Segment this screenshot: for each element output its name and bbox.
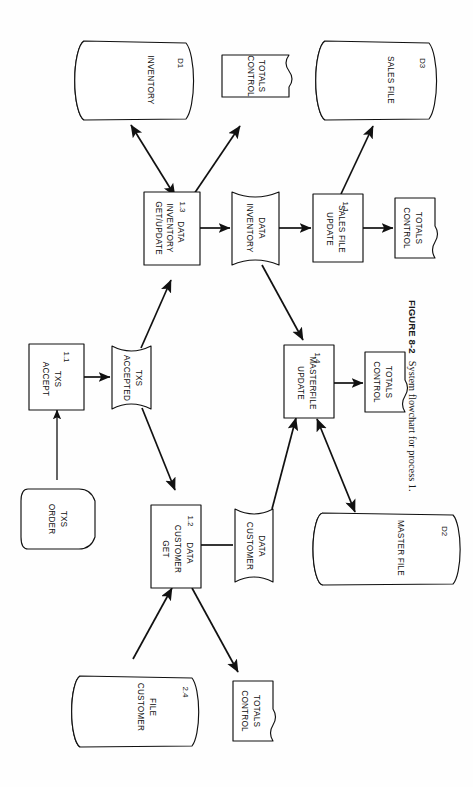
update-masterfile-line2: MASTERFILE	[308, 356, 317, 410]
edge-inventory-data-to-masterfile	[262, 265, 303, 340]
control-totals-sales-line2: TOTALS	[414, 212, 423, 245]
accepted-txs-line2: TXS	[134, 370, 143, 387]
node-control-totals-sales[interactable]: CONTROL TOTALS	[395, 198, 438, 258]
order-txs-line1: ORDER	[47, 504, 56, 535]
node-accepted-txs[interactable]: ACCEPTED TXS	[112, 346, 151, 409]
figure-caption: FIGURE 8-2System flowchart for process 1…	[407, 300, 418, 530]
get-update-inventory-line3: DATA	[176, 221, 185, 243]
edge-accepted-to-get-update-inventory	[141, 280, 171, 348]
accept-txs-line2: TXS	[53, 371, 62, 388]
node-control-totals-inventory[interactable]: CONTROL TOTALS	[222, 55, 292, 97]
edge-masterfile-bidirectional	[317, 419, 355, 512]
accepted-txs-line1: ACCEPTED	[122, 355, 131, 401]
edge-accepted-to-get-customer	[142, 408, 175, 490]
control-totals-master-line2: TOTALS	[384, 366, 393, 399]
get-update-inventory-line2: INVENTORY	[165, 203, 174, 253]
figure-number: FIGURE 8-2	[407, 300, 418, 354]
control-totals-inventory-line1: CONTROL	[246, 55, 255, 97]
node-order-txs[interactable]: ORDER TXS	[21, 489, 95, 549]
node-get-customer-data[interactable]: GET CUSTOMER DATA 1.2	[151, 505, 201, 588]
control-totals-inventory-line2: TOTALS	[257, 60, 266, 93]
edge-get-customer-to-control-totals	[192, 588, 238, 672]
node-inventory-store[interactable]: INVENTORY D1	[75, 41, 194, 120]
node-control-totals-master[interactable]: CONTROL TOTALS	[365, 352, 408, 412]
system-flowchart-diagram: INVENTORY D1 CONTROL TOTALS SALES FILE D…	[0, 0, 473, 787]
accept-txs-line1: ACCEPT	[41, 362, 50, 396]
customer-data-line1: CUSTOMER	[245, 522, 254, 570]
inventory-store-id: D1	[176, 58, 185, 69]
customer-file-store-line1: CUSTOMER	[136, 683, 145, 731]
edge-inventory-bidirectional	[131, 125, 175, 196]
master-file-store-id: D2	[440, 526, 449, 537]
node-customer-file-store[interactable]: CUSTOMER FILE 2.4	[72, 676, 199, 747]
control-totals-sales-line1: CONTROL	[402, 207, 411, 249]
update-masterfile-id: 1.4	[313, 352, 322, 364]
update-sales-file-id: 1.1	[341, 201, 350, 213]
order-txs-line2: TXS	[59, 511, 68, 528]
master-file-store-label: MASTER FILE	[396, 520, 405, 576]
get-update-inventory-line1: GET/UPDATE	[154, 201, 163, 255]
get-customer-data-line2: CUSTOMER	[173, 525, 182, 573]
customer-file-store-line2: FILE	[148, 698, 157, 716]
control-totals-master-line1: CONTROL	[372, 361, 381, 403]
get-customer-data-line3: DATA	[185, 542, 194, 564]
get-update-inventory-id: 1.3	[178, 201, 187, 213]
customer-data-line2: DATA	[257, 535, 266, 557]
edge-customer-data-to-masterfile	[272, 418, 296, 509]
sales-file-store-label: SALES FILE	[386, 56, 395, 104]
get-customer-data-line1: GET	[161, 540, 170, 557]
node-master-file-store[interactable]: MASTER FILE D2	[313, 513, 460, 585]
inventory-data-line1: INVENTORY	[245, 203, 254, 253]
node-get-update-inventory[interactable]: GET/UPDATE INVENTORY DATA 1.3	[144, 192, 200, 265]
sales-file-store-id: D3	[418, 58, 427, 69]
node-sales-file-store[interactable]: SALES FILE D3	[316, 41, 437, 120]
control-totals-customer-line2: TOTALS	[252, 695, 261, 728]
control-totals-customer-line1: CONTROL	[240, 690, 249, 732]
node-accept-txs[interactable]: ACCEPT TXS 1.1	[29, 344, 84, 410]
inventory-data-line2: DATA	[257, 217, 266, 239]
inventory-store-label: INVENTORY	[146, 55, 155, 105]
node-update-masterfile[interactable]: UPDATE MASTERFILE 1.4	[284, 345, 334, 418]
node-customer-data-flow[interactable]: CUSTOMER DATA	[235, 509, 273, 582]
customer-file-store-id: 2.4	[181, 686, 190, 698]
edge-customer-file-to-get-customer	[133, 588, 172, 659]
node-control-totals-customer[interactable]: CONTROL TOTALS	[233, 681, 276, 741]
update-masterfile-line1: UPDATE	[296, 366, 305, 400]
update-sales-file-line1: UPDATE	[325, 212, 334, 246]
edge-update-sales-to-sales-file	[341, 126, 373, 194]
figure-page: INVENTORY D1 CONTROL TOTALS SALES FILE D…	[0, 0, 473, 787]
node-inventory-data-flow[interactable]: INVENTORY DATA	[232, 192, 279, 265]
edge-inventory-to-control-totals	[194, 126, 240, 194]
node-update-sales-file[interactable]: UPDATE SALES FILE 1.1	[313, 194, 363, 262]
accept-txs-id: 1.1	[62, 351, 71, 363]
figure-caption-text: System flowchart for process 1.	[407, 361, 418, 492]
get-customer-data-id: 1.2	[186, 515, 195, 527]
